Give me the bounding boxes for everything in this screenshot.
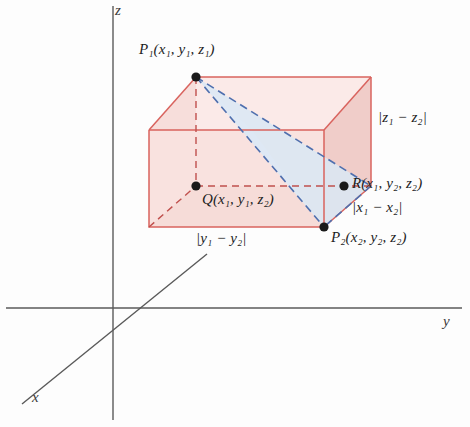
point-dot-P1	[191, 72, 200, 81]
point-dot-P2	[319, 222, 328, 231]
axis-label-z: z	[115, 2, 121, 19]
edge-label-delta-z: |z₁ − z₂|	[378, 110, 427, 125]
point-label-P2: P₂(x₂, y₂, z₂)	[331, 230, 407, 245]
point-label-R: R(x₁, y₂, z₂)	[352, 176, 422, 191]
figure-root: z y x P₁(x₁, y₁, z₁) Q(x₁, y₁, z₂) R(x₁,…	[0, 0, 470, 427]
edge-label-delta-y: |y₁ − y₂|	[196, 231, 247, 246]
x-axis-line	[22, 254, 207, 404]
point-label-Q: Q(x₁, y₁, z₂)	[202, 192, 274, 207]
axis-label-y: y	[443, 313, 450, 330]
axis-label-x: x	[32, 389, 39, 406]
point-label-P1: P₁(x₁, y₁, z₁)	[139, 42, 215, 57]
edge-label-delta-x: |x₁ − x₂|	[352, 200, 403, 215]
point-dot-R	[339, 181, 348, 190]
point-dot-Q	[191, 181, 200, 190]
